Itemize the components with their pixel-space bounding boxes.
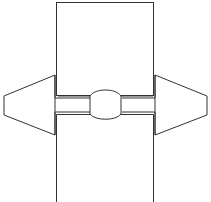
left-arrow <box>4 75 55 135</box>
center-connector <box>90 90 121 119</box>
bottom-block <box>55 112 155 202</box>
diagram-canvas <box>0 0 211 202</box>
top-block <box>55 3 155 99</box>
right-arrow <box>155 75 207 135</box>
